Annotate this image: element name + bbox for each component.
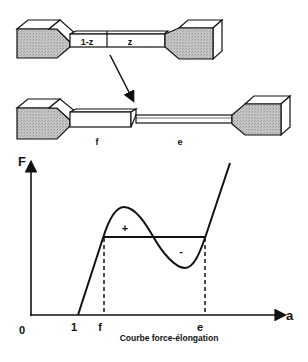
- right-grip: [165, 20, 222, 59]
- force-elongation-graph: [30, 163, 284, 316]
- transition-arrow: [110, 55, 133, 100]
- label-z: z: [128, 37, 133, 47]
- label-1-minus-z: 1-z: [81, 37, 94, 47]
- tick-label-e: e: [197, 321, 203, 333]
- diagram-canvas: 1-z z f e: [0, 0, 308, 362]
- right-grip-bottom: [232, 96, 290, 135]
- origin-label: 0: [19, 324, 25, 336]
- area-minus-label: -: [179, 245, 183, 257]
- bottom-specimen: [17, 96, 290, 139]
- label-f-specimen: f: [96, 137, 100, 147]
- top-specimen: [17, 20, 222, 59]
- thin-part: [136, 115, 232, 123]
- label-e-specimen: e: [177, 137, 182, 147]
- x-axis-label: a: [286, 308, 294, 323]
- y-axis-label: F: [18, 154, 26, 169]
- force-curve: [78, 163, 230, 315]
- area-plus-label: +: [122, 222, 128, 234]
- tick-label-1: 1: [71, 321, 77, 333]
- left-grip: [17, 20, 76, 58]
- tick-label-f: f: [98, 321, 102, 333]
- thick-part: [70, 109, 136, 127]
- left-grip-bottom: [17, 99, 76, 139]
- graph-caption: Courbe force-élongation: [120, 333, 219, 343]
